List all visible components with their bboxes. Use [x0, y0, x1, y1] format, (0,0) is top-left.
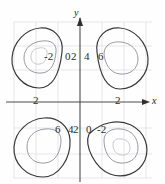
tick-label-x-left: 2 [33, 95, 39, 106]
tick-label-y-lower: 2 [73, 124, 79, 135]
contour-label-lower-left-inner: 6 [55, 124, 61, 135]
contour-group-lower-left [14, 118, 70, 177]
contour-label-upper-right-outer: 4 [84, 51, 90, 62]
axis-lines [6, 18, 142, 182]
contour-label-upper-left-outer: 0 [65, 51, 71, 62]
contour-label-upper-left-inner: -2 [44, 51, 53, 62]
contour-label-lower-right-outer: 0 [86, 124, 92, 135]
contour-group-upper-left [12, 28, 62, 88]
y-axis-label: y [74, 8, 78, 18]
contour-curve-innermost [113, 139, 130, 155]
contour-label-upper-right-inner: 6 [98, 51, 104, 62]
contour-label-lower-right-inner: -2 [97, 124, 106, 135]
y-axis-arrow-icon [77, 17, 83, 26]
plot-canvas [0, 0, 165, 184]
contour-curve-inner [104, 42, 138, 74]
contour-group-upper-right [97, 28, 148, 89]
contour-plot-figure: x y -2 0 2 4 6 2 2 6 4 2 0 -2 [0, 0, 165, 184]
contour-curve-inner [104, 129, 138, 163]
contour-curve-outer [14, 118, 70, 177]
tick-label-y-upper: 2 [71, 51, 77, 62]
tick-label-x-right: 2 [115, 95, 121, 106]
x-axis-label: x [152, 96, 156, 106]
